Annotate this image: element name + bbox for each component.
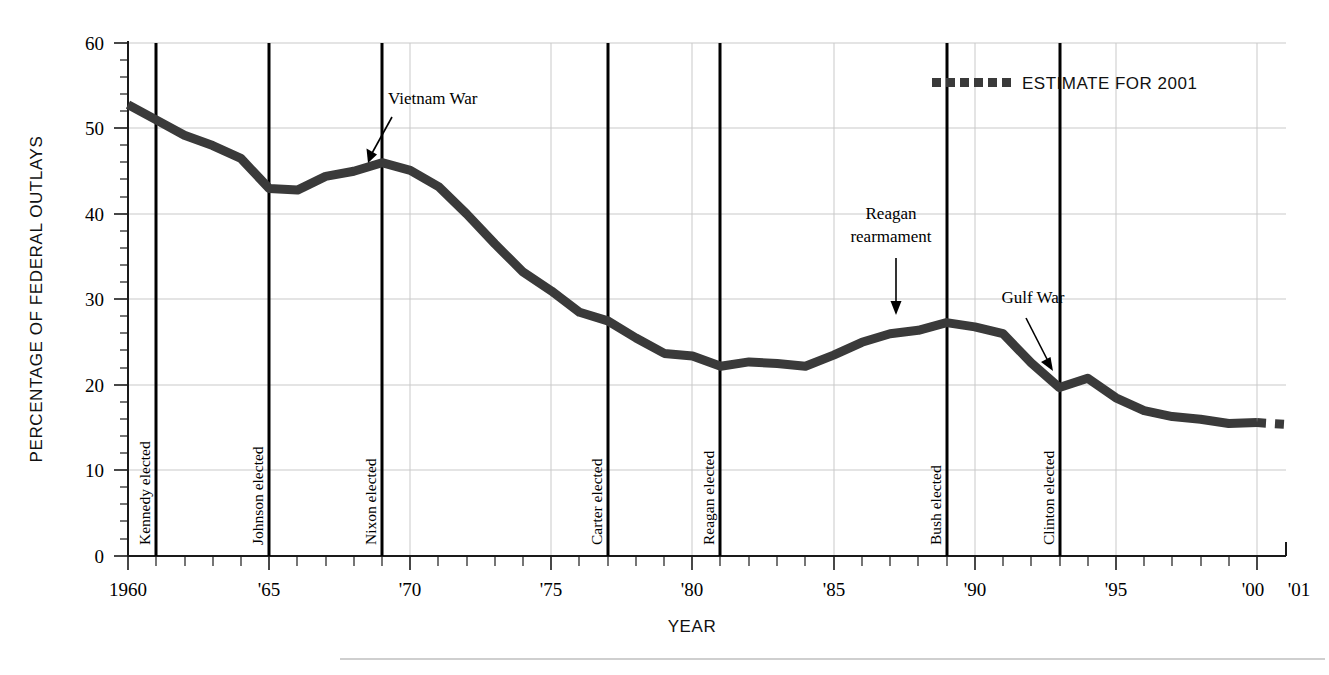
- x-tick-label-1980: '80: [681, 579, 703, 600]
- data-series-estimate-line: [1257, 423, 1285, 425]
- x-tick-label-2001: '01: [1288, 579, 1310, 600]
- annotation-label-gulf: Gulf War: [1002, 288, 1065, 307]
- event-label-reagan: Reagan elected: [700, 451, 717, 545]
- x-tick-label-1990: '90: [964, 579, 986, 600]
- annotation-reagan-rearmament: Reagan rearmament: [850, 204, 931, 315]
- y-tick-label-20: 20: [85, 375, 104, 396]
- y-tick-labels: 60 50 40 30 20 10 0: [85, 33, 104, 567]
- y-tick-label-50: 50: [85, 118, 104, 139]
- y-tick-label-0: 0: [95, 546, 105, 567]
- annotation-arrowhead-reagan: [891, 301, 902, 315]
- legend-label-estimate: ESTIMATE FOR 2001: [1022, 74, 1197, 93]
- x-tick-label-1970: '70: [399, 579, 421, 600]
- y-tick-label-40: 40: [85, 204, 104, 225]
- y-tick-label-60: 60: [85, 33, 104, 54]
- annotation-label-reagan-line2: rearmament: [850, 227, 931, 246]
- annotation-label-vietnam: Vietnam War: [388, 89, 478, 108]
- chart-container: 60 50 40 30 20 10 0 1960 '65 '70 '75 '80…: [0, 0, 1329, 675]
- x-tick-label-1965: '65: [258, 579, 280, 600]
- x-tick-label-1985: '85: [823, 579, 845, 600]
- event-label-nixon: Nixon elected: [362, 458, 379, 545]
- legend-swatch-estimate: [932, 78, 1011, 87]
- event-labels: Kennedy elected Johnson elected Nixon el…: [136, 441, 1057, 545]
- gridlines: [128, 43, 1286, 470]
- y-axis-title: PERCENTAGE OF FEDERAL OUTLAYS: [27, 136, 46, 463]
- x-tick-label-1960: 1960: [109, 579, 147, 600]
- event-label-kennedy: Kennedy elected: [136, 441, 153, 545]
- legend: ESTIMATE FOR 2001: [932, 74, 1197, 93]
- event-label-johnson: Johnson elected: [249, 446, 266, 545]
- y-axis-major-ticks: [114, 43, 128, 556]
- y-tick-label-30: 30: [85, 289, 104, 310]
- line-chart: 60 50 40 30 20 10 0 1960 '65 '70 '75 '80…: [0, 0, 1329, 675]
- x-axis-title: YEAR: [668, 617, 717, 636]
- annotation-label-reagan-line1: Reagan: [866, 204, 917, 223]
- event-label-clinton: Clinton elected: [1040, 450, 1057, 545]
- x-tick-labels: 1960 '65 '70 '75 '80 '85 '90 '95 '00 '01: [109, 579, 1310, 600]
- event-label-bush: Bush elected: [927, 465, 944, 545]
- x-tick-label-2000: '00: [1242, 579, 1264, 600]
- x-tick-label-1995: '95: [1105, 579, 1127, 600]
- event-label-carter: Carter elected: [588, 458, 605, 545]
- x-tick-label-1975: '75: [540, 579, 562, 600]
- y-tick-label-10: 10: [85, 460, 104, 481]
